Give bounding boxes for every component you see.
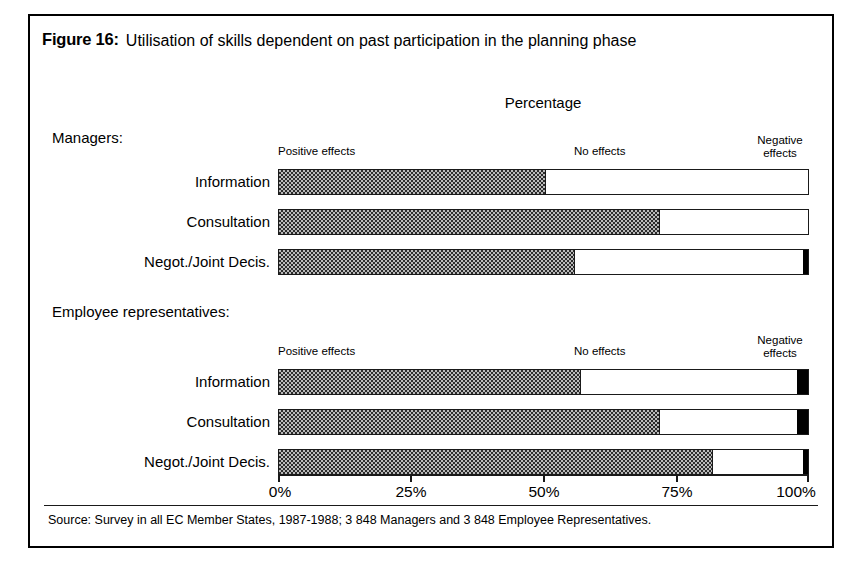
chart-plot-area: Percentage Managers: Positive effects No…	[30, 16, 832, 546]
bar-segment-negative	[803, 250, 808, 274]
bar-segment-no-effects	[660, 410, 798, 434]
axis-tick-25	[410, 475, 412, 482]
bar-segment-positive	[279, 210, 660, 234]
axis-tick-100	[807, 475, 809, 482]
bar-segment-no-effects	[713, 450, 803, 474]
axis-tick-label-25: 25%	[395, 483, 426, 501]
axis-tick-label-100: 100%	[776, 483, 816, 501]
legend-label-positive: Positive effects	[278, 145, 355, 158]
bar-managers-information	[278, 169, 809, 195]
bar-segment-negative	[803, 450, 808, 474]
group-title-employee-representatives: Employee representatives:	[52, 303, 230, 320]
bar-segment-positive	[279, 370, 581, 394]
source-divider	[44, 505, 818, 506]
bar-employees-information	[278, 369, 809, 395]
row-label-information: Information	[30, 369, 270, 395]
source-note: Source: Survey in all EC Member States, …	[48, 513, 651, 527]
group-title-managers: Managers:	[52, 129, 123, 146]
axis-tick-75	[676, 475, 678, 482]
bar-segment-positive	[279, 170, 546, 194]
axis-tick-0	[278, 475, 280, 482]
row-label-consultation: Consultation	[30, 209, 270, 235]
legend-label-positive: Positive effects	[278, 345, 355, 358]
row-label-consultation: Consultation	[30, 409, 270, 435]
row-label-negotiation: Negot./Joint Decis.	[30, 249, 270, 275]
bar-segment-no-effects	[660, 210, 808, 234]
axis-tick-label-75: 75%	[661, 483, 692, 501]
axis-tick-50	[543, 475, 545, 482]
legend-managers: Positive effects No effects Negative eff…	[278, 134, 818, 162]
bar-segment-positive	[279, 410, 660, 434]
table-row: Negot./Joint Decis.	[30, 249, 820, 275]
bar-managers-negotiation	[278, 249, 809, 275]
legend-label-negative-line2: effects	[763, 347, 797, 359]
bar-employees-consultation	[278, 409, 809, 435]
legend-label-negative-line2: effects	[763, 147, 797, 159]
axis-tick-label-50: 50%	[528, 483, 559, 501]
bar-segment-positive	[279, 250, 575, 274]
table-row: Information	[30, 369, 820, 395]
legend-label-negative: Negative effects	[749, 134, 811, 160]
bar-employees-negotiation	[278, 449, 809, 475]
legend-label-negative-line1: Negative	[757, 334, 802, 346]
axis-tick-label-0: 0%	[269, 483, 291, 501]
legend-label-no-effects: No effects	[574, 145, 626, 158]
bar-segment-positive	[279, 450, 713, 474]
legend-label-negative-line1: Negative	[757, 134, 802, 146]
row-label-information: Information	[30, 169, 270, 195]
figure-frame: Figure 16: Utilisation of skills depende…	[28, 14, 834, 548]
bar-managers-consultation	[278, 209, 809, 235]
table-row: Consultation	[30, 209, 820, 235]
table-row: Information	[30, 169, 820, 195]
legend-label-no-effects: No effects	[574, 345, 626, 358]
bar-segment-no-effects	[546, 170, 808, 194]
bar-segment-negative	[797, 370, 808, 394]
bar-segment-no-effects	[581, 370, 798, 394]
table-row: Consultation	[30, 409, 820, 435]
legend-label-negative: Negative effects	[749, 334, 811, 360]
legend-employees: Positive effects No effects Negative eff…	[278, 334, 818, 362]
row-label-negotiation: Negot./Joint Decis.	[30, 449, 270, 475]
bar-segment-no-effects	[575, 250, 802, 274]
axis-title-percentage: Percentage	[278, 94, 808, 111]
bar-segment-negative	[797, 410, 808, 434]
table-row: Negot./Joint Decis.	[30, 449, 820, 475]
x-axis: 0% 25% 50% 75% 100%	[278, 475, 809, 476]
